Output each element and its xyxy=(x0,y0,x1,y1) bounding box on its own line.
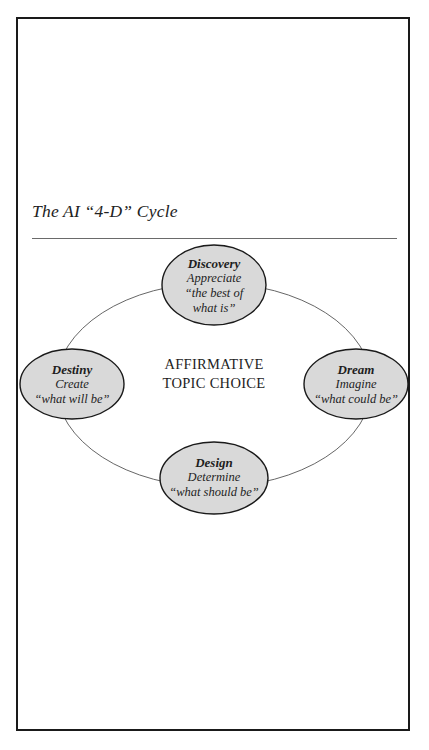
design-quote: “what should be” xyxy=(169,485,259,500)
center-line-2: TOPIC CHOICE xyxy=(163,374,266,393)
discovery-quote-line2: what is” xyxy=(185,301,243,316)
discovery-node: Discovery Appreciate “the best of what i… xyxy=(185,256,243,316)
dream-verb: Imagine xyxy=(314,377,398,392)
center-line-1: AFFIRMATIVE xyxy=(163,355,266,374)
design-verb: Determine xyxy=(169,470,259,485)
destiny-node: Destiny Create “what will be” xyxy=(34,362,109,407)
destiny-name: Destiny xyxy=(34,362,109,377)
design-node: Design Determine “what should be” xyxy=(169,455,259,500)
dream-quote: “what could be” xyxy=(314,392,398,407)
destiny-quote: “what will be” xyxy=(34,392,109,407)
discovery-verb: Appreciate xyxy=(185,271,243,286)
discovery-name: Discovery xyxy=(185,256,243,271)
destiny-verb: Create xyxy=(34,377,109,392)
dream-node: Dream Imagine “what could be” xyxy=(314,362,398,407)
discovery-quote-line1: “the best of xyxy=(185,286,243,301)
design-name: Design xyxy=(169,455,259,470)
dream-name: Dream xyxy=(314,362,398,377)
affirmative-topic-choice: AFFIRMATIVE TOPIC CHOICE xyxy=(163,355,266,393)
